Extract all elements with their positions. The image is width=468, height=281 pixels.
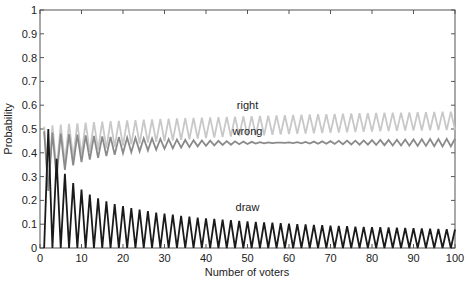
y-tick-label: 0.3	[22, 171, 37, 183]
x-tick-label: 10	[75, 252, 87, 264]
y-tick-label: 0.7	[22, 75, 37, 87]
y-axis-label: Probability	[2, 103, 14, 155]
x-tick-label: 20	[117, 252, 129, 264]
x-tick-label: 80	[366, 252, 378, 264]
y-tick-label: 0.5	[22, 123, 37, 135]
y-tick-label: 0.1	[22, 218, 37, 230]
series-right-label: right	[237, 99, 258, 111]
y-tick-label: 0.4	[22, 147, 37, 159]
y-tick-label: 0.6	[22, 99, 37, 111]
x-tick-label: 40	[200, 252, 212, 264]
x-tick-label: 60	[283, 252, 295, 264]
x-tick-label: 30	[158, 252, 170, 264]
y-tick-label: 1	[31, 4, 37, 16]
y-tick-label: 0.8	[22, 52, 37, 64]
y-tick-label: 0.2	[22, 194, 37, 206]
x-tick-label: 100	[446, 252, 464, 264]
x-tick-label: 70	[324, 252, 336, 264]
voting-probability-chart: 010203040506070809010000.10.20.30.40.50.…	[0, 0, 468, 281]
x-tick-label: 0	[37, 252, 43, 264]
series-draw-label: draw	[236, 201, 260, 213]
x-tick-label: 50	[241, 252, 253, 264]
series-wrong-label: wrong	[232, 125, 263, 137]
x-axis-label: Number of voters	[205, 266, 290, 278]
y-tick-label: 0.9	[22, 28, 37, 40]
y-tick-label: 0	[31, 242, 37, 254]
x-tick-label: 90	[407, 252, 419, 264]
